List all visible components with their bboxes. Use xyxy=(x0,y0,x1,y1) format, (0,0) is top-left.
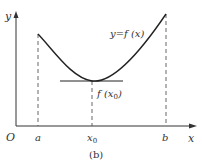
curve-f xyxy=(38,14,166,81)
origin-label: O xyxy=(6,131,15,144)
tick-label-a: a xyxy=(35,132,41,143)
x-axis-arrow-icon xyxy=(189,124,197,129)
min-value-label: f (x0) xyxy=(96,88,122,101)
x-axis-label: x xyxy=(188,132,195,145)
curve-label: y=f (x) xyxy=(109,28,144,39)
y-axis-arrow-icon xyxy=(14,11,19,18)
figure-caption: (b) xyxy=(89,149,103,160)
diagram-canvas: y O x a x0 b y=f (x) f (x0) (b) xyxy=(0,0,202,166)
tick-label-b: b xyxy=(162,132,168,143)
y-axis-label: y xyxy=(4,10,12,23)
tick-label-x0: x0 xyxy=(87,132,97,145)
